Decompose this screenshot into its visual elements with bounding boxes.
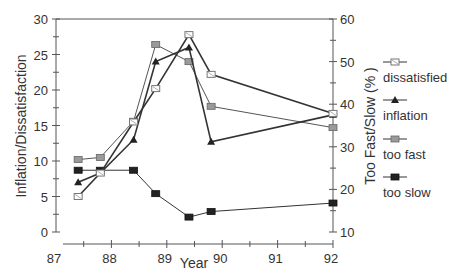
x-tick-label: 89	[158, 251, 172, 266]
data-point-marker	[130, 136, 138, 143]
legend-label: too slow	[383, 185, 431, 200]
y-tick-label-right: 30	[340, 140, 354, 155]
x-tick-label: 88	[102, 251, 116, 266]
series-line	[78, 47, 333, 182]
y-tick-label-right: 60	[340, 12, 354, 27]
legend-item-inflation: inflation	[383, 96, 428, 123]
x-axis-title: Year	[180, 255, 209, 271]
y-tick-label-right: 20	[340, 182, 354, 197]
y-tick-label-left: 30	[34, 12, 48, 27]
y-tick-label-right: 50	[340, 55, 354, 70]
legend-item-too-fast: too fast	[383, 136, 426, 162]
y-tick-label-left: 20	[34, 83, 48, 98]
data-point-marker	[130, 167, 138, 173]
x-tick-label: 87	[47, 251, 61, 266]
data-point-marker	[329, 125, 337, 131]
x-tick-label: 92	[324, 251, 338, 266]
legend-item-dissatisfied: dissatisfied	[383, 59, 447, 85]
data-point-marker	[185, 43, 193, 50]
legend-marker	[391, 136, 399, 142]
x-tick-label: 91	[268, 251, 282, 266]
y-tick-label-left: 0	[41, 225, 48, 240]
data-point-marker	[74, 167, 82, 173]
y-tick-label-left: 10	[34, 154, 48, 169]
data-point-marker	[329, 200, 337, 206]
data-point-marker	[185, 214, 193, 220]
series-too-slow	[74, 167, 337, 220]
y-axis-title-right: Too Fast/Slow (% )	[362, 67, 378, 184]
y-tick-label-left: 25	[34, 48, 48, 63]
y-tick-label-left: 15	[34, 119, 48, 134]
legend-item-too-slow: too slow	[383, 174, 431, 200]
legend-label: inflation	[383, 108, 428, 123]
legend: dissatisfiedinflationtoo fasttoo slow	[383, 59, 447, 200]
y-tick-label-right: 10	[340, 225, 354, 240]
axes: 051015202530102030405060878889909192	[34, 12, 355, 266]
y-axis-title-left: Inflation/Dissatisfaction	[13, 54, 29, 197]
x-tick-label: 90	[213, 251, 227, 266]
series-layer	[74, 32, 337, 220]
series-line	[78, 170, 333, 217]
legend-marker	[391, 174, 399, 180]
data-point-marker	[152, 42, 160, 48]
data-point-marker	[96, 154, 104, 160]
data-point-marker	[207, 209, 215, 215]
y-tick-label-left: 5	[41, 190, 48, 205]
chart: 051015202530102030405060878889909192 dis…	[0, 0, 460, 279]
legend-label: too fast	[383, 147, 426, 162]
data-point-marker	[207, 103, 215, 109]
legend-label: dissatisfied	[383, 70, 447, 85]
y-tick-label-right: 40	[340, 97, 354, 112]
data-point-marker	[74, 157, 82, 163]
data-point-marker	[152, 191, 160, 197]
series-line	[78, 45, 333, 160]
